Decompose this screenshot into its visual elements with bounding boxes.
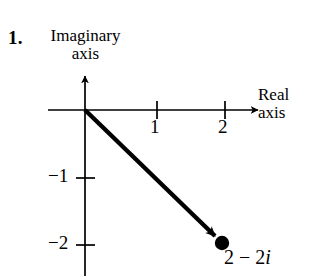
real-axis-label-line2: axis xyxy=(258,104,314,121)
tick-label-imaginary-minus-2: −2 xyxy=(48,233,68,252)
tick-label-real-1: 1 xyxy=(150,117,160,136)
imaginary-axis-label-line1: Imaginary xyxy=(51,26,121,45)
real-axis-label-line1: Real xyxy=(258,85,289,104)
point-label: 2 − 2i xyxy=(224,247,271,267)
problem-number: 1. xyxy=(8,28,23,47)
imaginary-axis-label-line2: axis xyxy=(33,45,138,62)
imaginary-axis-label: Imaginary axis xyxy=(33,27,138,63)
tick-label-imaginary-minus-1: −1 xyxy=(48,166,68,185)
complex-plane-figure: 1. Imaginary axis Real axis 1 2 −1 −2 2 … xyxy=(0,0,314,276)
point-label-imaginary-unit: i xyxy=(265,246,271,268)
point-label-real-part: 2 − 2 xyxy=(224,246,265,268)
tick-label-real-2: 2 xyxy=(218,117,228,136)
real-axis-label: Real axis xyxy=(258,86,314,122)
